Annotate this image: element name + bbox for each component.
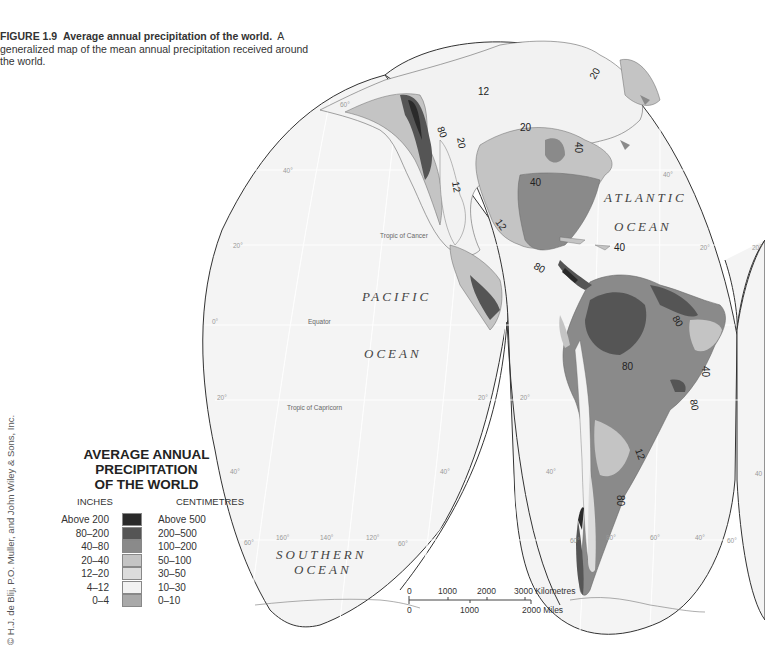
- atl-20n-b-label: 20°: [752, 244, 762, 251]
- legend-inches: Above 200: [55, 514, 109, 525]
- legend-swatch: [122, 594, 142, 607]
- legend-swatch: [122, 513, 142, 526]
- legend-title-line: PRECIPITATION: [63, 462, 230, 477]
- legend-inches: 12–20: [55, 568, 109, 579]
- legend-inches: 4–12: [55, 582, 109, 593]
- ocean-label: OCEAN: [294, 562, 352, 577]
- legend-cm: 100–200: [158, 541, 197, 552]
- legend-swatch: [122, 527, 142, 540]
- legend-row: 80–200200–500: [55, 527, 230, 541]
- legend-inches: 0–4: [55, 595, 109, 606]
- legend-centimetres-header: CENTIMETRES: [176, 496, 244, 507]
- legend-swatch: [122, 554, 142, 567]
- atl-40n-label: 40°: [663, 171, 673, 178]
- lon-60-label: 60°: [650, 534, 660, 541]
- legend-swatch: [122, 567, 142, 580]
- legend-row: 20–4050–100: [55, 554, 230, 568]
- atl-20n-label: 20°: [700, 244, 710, 251]
- lat-60s-label: 60°: [244, 539, 254, 546]
- scale-mi-2000: 2000 Miles: [522, 605, 563, 615]
- lon-120-label: 120°: [366, 534, 380, 541]
- legend-swatch: [122, 581, 142, 594]
- isohyet-40: 40: [573, 142, 584, 154]
- isohyet-80: 80: [615, 495, 626, 507]
- isohyet-40: 40: [614, 242, 626, 253]
- legend-row: 0–40–10: [55, 594, 230, 608]
- sa-60-label: 60°: [570, 537, 580, 544]
- scale-km-3000: 3000 Kilometres: [514, 586, 575, 596]
- lon-40-label: 40°: [695, 534, 705, 541]
- sa-40-label: 40°: [546, 468, 556, 475]
- pac-60e-label: 60°: [398, 540, 408, 547]
- legend-cm: Above 500: [158, 514, 206, 525]
- legend-row: 12–2030–50: [55, 567, 230, 581]
- right-40-label: 40: [755, 470, 763, 477]
- legend-inches: 20–40: [55, 555, 109, 566]
- lon-140-label: 140°: [320, 534, 334, 541]
- sa-20-label: 20°: [520, 394, 530, 401]
- legend-row: Above 200Above 500: [55, 513, 230, 527]
- lat-20n-label: 20°: [233, 242, 243, 249]
- legend-inches-header: INCHES: [77, 496, 113, 507]
- equator-label: Equator: [308, 318, 332, 326]
- legend-row: 40–80100–200: [55, 540, 230, 554]
- isohyet-80: 80: [622, 361, 634, 372]
- lat-0-label: 0°: [212, 318, 219, 325]
- ocean-label: OCEAN: [614, 219, 672, 234]
- legend: AVERAGE ANNUAL PRECIPITATION OF THE WORL…: [55, 447, 230, 608]
- legend-title-line: AVERAGE ANNUAL: [63, 447, 230, 462]
- legend-title-line: OF THE WORLD: [63, 477, 230, 492]
- isohyet-40: 40: [530, 177, 542, 188]
- pacific-label: PACIFIC: [361, 289, 431, 304]
- pac-20e-label: 20°: [478, 394, 488, 401]
- isohyet-20: 20: [520, 122, 532, 133]
- lat-40n-label: 40°: [283, 167, 293, 174]
- lat-40s-label: 40°: [230, 468, 240, 475]
- atlantic-label: ATLANTIC: [603, 190, 687, 205]
- lon-160-label: 160°: [276, 534, 290, 541]
- sa-60b-label: 60°: [727, 537, 737, 544]
- legend-inches: 40–80: [55, 541, 109, 552]
- lat-20s-label: 20°: [217, 394, 227, 401]
- scale-km-2000: 2000: [477, 586, 496, 596]
- lon-80-label: 80°: [606, 534, 616, 541]
- scale-mi-1000: 1000: [460, 605, 479, 615]
- legend-cm: 0–10: [158, 595, 180, 606]
- isohyet-40: 40: [700, 366, 711, 378]
- southern-label: SOUTHERN: [276, 547, 366, 562]
- pac-40e-label: 40°: [440, 468, 450, 475]
- legend-swatch: [122, 540, 142, 553]
- isohyet-12: 12: [478, 86, 490, 97]
- legend-cm: 10–30: [158, 582, 186, 593]
- legend-inches: 80–200: [55, 528, 109, 539]
- legend-cm: 200–500: [158, 528, 197, 539]
- legend-cm: 50–100: [158, 555, 191, 566]
- legend-cm: 30–50: [158, 568, 186, 579]
- tropic-capricorn-label: Tropic of Capricorn: [287, 404, 342, 412]
- scale-km-0: 0: [407, 586, 412, 596]
- legend-title: AVERAGE ANNUAL PRECIPITATION OF THE WORL…: [63, 447, 230, 492]
- tropic-cancer-label: Tropic of Cancer: [380, 232, 429, 240]
- lat-60n-label: 60°: [340, 101, 350, 108]
- ocean-label: OCEAN: [364, 346, 422, 361]
- scale-km-1000: 1000: [438, 586, 457, 596]
- scale-mi-0: 0: [407, 605, 412, 615]
- legend-row: 4–1210–30: [55, 581, 230, 595]
- legend-rows: Above 200Above 500 80–200200–500 40–8010…: [55, 513, 230, 608]
- copyright-notice: © H.J. de Blij, P.O. Muller, and John Wi…: [5, 415, 16, 645]
